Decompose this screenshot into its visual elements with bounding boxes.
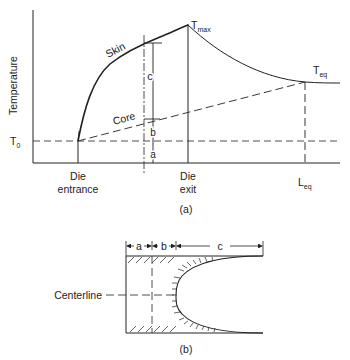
- leq-label: Leq: [298, 176, 312, 191]
- dim-c-label: c: [217, 240, 222, 252]
- figure-b: a b c: [54, 240, 263, 355]
- centerline-label: Centerline: [54, 289, 102, 301]
- flow-front-curve: [176, 256, 263, 333]
- segment-a-label: a: [150, 149, 156, 160]
- y-axis-label: Temperature: [7, 56, 19, 115]
- teq-label: Teq: [313, 64, 327, 79]
- die-entrance-label-1: Die: [70, 170, 86, 182]
- skin-curve: [78, 25, 188, 141]
- die-exit-label-2: exit: [180, 183, 196, 195]
- die-entrance-label-2: entrance: [58, 183, 99, 195]
- caption-b: (b): [180, 343, 193, 355]
- tmax-label: Tmax: [191, 19, 211, 33]
- figure-a: Temperature T0 Tmax Teq Skin Core c b a …: [7, 10, 340, 215]
- core-line: [78, 82, 305, 141]
- caption-a: (a): [180, 203, 193, 215]
- core-label: Core: [111, 109, 136, 127]
- t0-label: T0: [10, 135, 20, 149]
- segment-b-label: b: [150, 127, 156, 138]
- dim-b-label: b: [161, 240, 167, 252]
- diagram-canvas: Temperature T0 Tmax Teq Skin Core c b a …: [0, 0, 350, 360]
- segment-c-label: c: [147, 70, 153, 82]
- dim-a-label: a: [136, 240, 142, 252]
- hatch-curve: [172, 257, 215, 332]
- skin-label: Skin: [103, 40, 127, 60]
- hatch-bottom: [130, 326, 176, 332]
- hatch-top: [128, 257, 174, 263]
- die-exit-label-1: Die: [180, 170, 196, 182]
